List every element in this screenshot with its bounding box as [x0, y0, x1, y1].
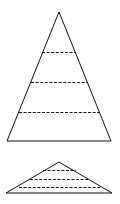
tall-pyramid-outline	[7, 12, 111, 141]
flat-pyramid-outline	[6, 162, 112, 193]
tall-pyramid	[7, 12, 111, 141]
flat-pyramid	[6, 162, 112, 193]
tall-pyramid-divisions	[19, 53, 100, 113]
pyramid-diagram	[0, 0, 120, 204]
